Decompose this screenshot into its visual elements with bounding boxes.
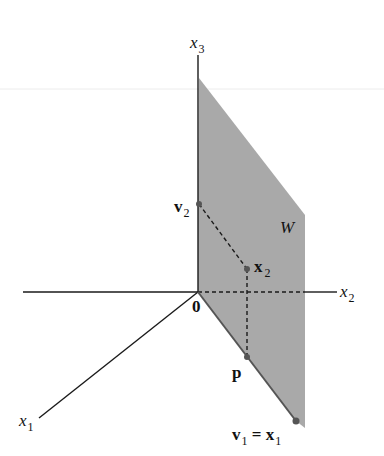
x1-axis-label: x1	[18, 411, 34, 434]
origin-label: 0	[192, 297, 201, 316]
p-label: p	[232, 363, 241, 382]
projection-diagram: x3 x2 x1 0 W v2 x2 p v1 = x1	[0, 0, 384, 456]
point-v2	[196, 201, 202, 207]
point-x2	[244, 266, 250, 272]
point-v1	[293, 418, 300, 425]
x3-axis-label: x3	[189, 33, 205, 56]
v1-equals-x1-label: v1 = x1	[232, 425, 281, 448]
x2-axis-label: x2	[339, 282, 355, 305]
v2-label: v2	[174, 197, 190, 220]
point-p	[244, 354, 250, 360]
x1-axis	[39, 292, 198, 418]
plane-w	[198, 78, 305, 428]
plane-w-label: W	[280, 218, 296, 237]
